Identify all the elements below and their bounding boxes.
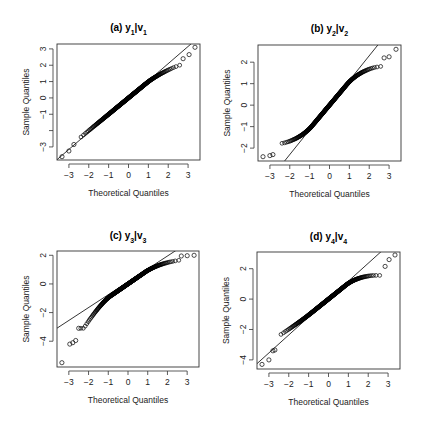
- qq-point: [79, 135, 83, 139]
- panel-c: (c) y3|v3 −3−2−10123−4−202 Theoretical Q…: [21, 223, 219, 405]
- x-tick-label: −2: [285, 171, 295, 181]
- qq-outlier-point: [382, 56, 386, 60]
- y-tick-label: 0: [238, 296, 248, 301]
- panel-b-x-axis-label: Theoretical Quantiles: [289, 189, 369, 199]
- qq-outlier-point: [74, 338, 78, 342]
- y-tick-label: 2: [38, 253, 48, 258]
- panel-a-x-axis-label: Theoretical Quantiles: [88, 188, 168, 198]
- y-tick-label: −4: [38, 336, 48, 346]
- x-tick-label: 2: [166, 170, 171, 180]
- panel-d-frame: [257, 252, 400, 369]
- x-tick-label: −1: [304, 379, 314, 389]
- x-tick-label: 3: [185, 377, 190, 387]
- panel-b-x-axis: −3−2−10123: [265, 165, 392, 181]
- qq-point: [174, 65, 178, 69]
- qq-plot-figure: (a) y1|v1 −3−2−10123−3−10123 Theoretical…: [0, 0, 423, 429]
- x-tick-label: 0: [126, 377, 131, 387]
- panel-d-points: [260, 253, 397, 367]
- x-tick-label: −1: [305, 171, 315, 181]
- x-tick-label: −2: [284, 379, 294, 389]
- x-tick-label: 0: [126, 170, 131, 180]
- y-tick-label: 2: [38, 63, 48, 68]
- y-tick-label: 3: [38, 46, 48, 51]
- y-tick-label: −1: [38, 109, 48, 119]
- panel-c-frame: [57, 251, 199, 367]
- qq-point: [374, 274, 378, 278]
- panel-b-y-axis: −2−1012: [239, 60, 254, 153]
- qq-outlier-point: [261, 155, 265, 159]
- x-tick-label: 1: [346, 379, 351, 389]
- y-tick-label: −1: [239, 122, 249, 132]
- x-tick-label: −1: [104, 170, 114, 180]
- x-tick-label: −3: [64, 170, 74, 180]
- panel-c-points: [60, 253, 196, 365]
- x-tick-label: 2: [165, 377, 170, 387]
- panel-a-x-axis: −3−2−10123: [64, 164, 191, 180]
- x-tick-label: 3: [386, 379, 391, 389]
- x-tick-label: 2: [366, 379, 371, 389]
- y-tick-label: −3: [38, 142, 48, 152]
- x-tick-label: −3: [265, 171, 275, 181]
- x-tick-label: −1: [103, 377, 113, 387]
- panel-d-y-axis: −4−202: [238, 266, 253, 365]
- x-tick-label: −3: [264, 379, 274, 389]
- qq-outlier-point: [387, 258, 391, 262]
- y-tick-label: 1: [38, 79, 48, 84]
- y-tick-label: −2: [239, 143, 249, 153]
- x-tick-label: −3: [64, 377, 74, 387]
- x-tick-label: −2: [84, 377, 94, 387]
- panel-c-x-axis: −3−2−10123: [64, 371, 190, 387]
- panel-a-y-axis: −3−10123: [38, 46, 53, 152]
- panel-d: (d) y4|v4 −3−2−10123−4−202 Theoretical Q…: [221, 217, 420, 407]
- qq-outlier-point: [187, 53, 191, 57]
- panel-b: (b) y2|v2 −3−2−10123−2−1012 Theoretical …: [222, 0, 421, 219]
- panel-d-x-axis: −3−2−10123: [264, 373, 391, 389]
- y-tick-label: −2: [238, 324, 248, 334]
- qq-point: [378, 274, 382, 278]
- qq-outlier-point: [181, 57, 185, 61]
- panel-b-title: (b) y2|v2: [311, 23, 348, 37]
- x-tick-label: 3: [387, 171, 392, 181]
- panel-d-title: (d) y4|v4: [310, 231, 347, 245]
- y-tick-label: 0: [38, 281, 48, 286]
- x-tick-label: 0: [326, 379, 331, 389]
- x-tick-label: 3: [186, 170, 191, 180]
- qq-point: [379, 65, 383, 69]
- panel-c-plot-area: −3−2−10123−4−202: [37, 223, 218, 387]
- panel-d-y-axis-label: Sample Quantiles: [221, 277, 231, 344]
- x-tick-label: 2: [367, 171, 372, 181]
- x-tick-label: 1: [347, 171, 352, 181]
- panel-a: (a) y1|v1 −3−2−10123−3−10123 Theoretical…: [21, 19, 220, 198]
- x-tick-label: 1: [146, 170, 151, 180]
- qq-outlier-point: [185, 254, 189, 258]
- panel-a-points: [60, 45, 197, 159]
- panel-a-plot-area: −3−2−10123−3−10123: [37, 19, 220, 180]
- panel-d-plot-area: −3−2−10123−4−202: [237, 217, 420, 389]
- qq-outlier-point: [393, 253, 397, 257]
- y-tick-label: 2: [238, 266, 248, 271]
- qq-outlier-point: [260, 362, 264, 366]
- y-tick-label: 1: [239, 81, 249, 86]
- qq-outlier-point: [387, 55, 391, 59]
- qq-point: [173, 259, 177, 263]
- y-tick-label: −4: [238, 355, 248, 365]
- y-tick-label: 2: [239, 60, 249, 65]
- panel-d-x-axis-label: Theoretical Quantiles: [288, 397, 368, 407]
- x-tick-label: 0: [327, 171, 332, 181]
- qq-outlier-point: [394, 47, 398, 51]
- panel-c-title: (c) y3|v3: [110, 230, 147, 244]
- x-tick-label: 1: [145, 377, 150, 387]
- panel-c-y-axis: −4−202: [38, 253, 53, 346]
- qq-outlier-point: [193, 45, 197, 49]
- panel-c-x-axis-label: Theoretical Quantiles: [88, 395, 168, 405]
- y-tick-label: 0: [239, 103, 249, 108]
- panel-a-title: (a) y1|v1: [110, 22, 147, 36]
- qq-outlier-point: [383, 264, 387, 268]
- panel-b-points: [261, 47, 398, 159]
- qq-point: [178, 63, 182, 67]
- panel-a-frame: [57, 44, 200, 160]
- qq-point: [375, 65, 379, 69]
- panel-b-y-axis-label: Sample Quantiles: [222, 69, 232, 136]
- panel-a-qq-reference-line: [37, 19, 220, 177]
- qq-outlier-point: [267, 358, 271, 362]
